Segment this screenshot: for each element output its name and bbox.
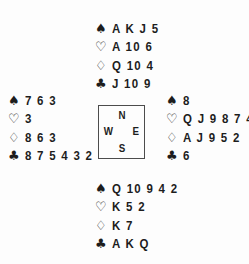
west-clubs-row: ♣ 8 7 5 4 3 2 (8, 147, 105, 166)
bridge-deal-diagram: ♠ A K J 5 ♡ A 10 6 ♢ Q 10 4 ♣ J 10 9 ♠ 7… (0, 0, 249, 264)
north-clubs-cards: J 10 9 (112, 77, 152, 91)
north-hearts-row: ♡ A 10 6 (95, 38, 168, 57)
west-hearts-row: ♡ 3 (8, 110, 105, 129)
west-diamonds-row: ♢ 8 6 3 (8, 128, 105, 147)
east-hearts-row: ♡ Q J 9 8 7 4 (166, 110, 249, 129)
spade-icon: ♠ (8, 94, 25, 107)
club-icon: ♣ (8, 149, 25, 162)
club-icon: ♣ (95, 237, 112, 250)
south-hearts-cards: K 5 2 (112, 200, 146, 214)
north-clubs-row: ♣ J 10 9 (95, 75, 168, 94)
west-hand: ♠ 7 6 3 ♡ 3 ♢ 8 6 3 ♣ 8 7 5 4 3 2 (8, 91, 105, 165)
south-diamonds-cards: K 7 (112, 219, 134, 233)
west-hearts-cards: 3 (25, 112, 33, 126)
north-spades-row: ♠ A K J 5 (95, 19, 168, 38)
spade-icon: ♠ (95, 182, 112, 195)
compass-box: N E S W (98, 105, 145, 159)
west-clubs-cards: 8 7 5 4 3 2 (25, 149, 93, 163)
diamond-icon: ♢ (95, 219, 112, 232)
south-hearts-row: ♡ K 5 2 (95, 198, 190, 217)
south-spades-row: ♠ Q 10 9 4 2 (95, 179, 190, 198)
spade-icon: ♠ (95, 22, 112, 35)
heart-icon: ♡ (8, 112, 25, 125)
south-hand: ♠ Q 10 9 4 2 ♡ K 5 2 ♢ K 7 ♣ A K Q (95, 179, 190, 253)
west-spades-cards: 7 6 3 (25, 94, 57, 108)
east-spades-cards: 8 (183, 94, 191, 108)
south-clubs-cards: A K Q (112, 237, 150, 251)
club-icon: ♣ (95, 77, 112, 90)
north-diamonds-row: ♢ Q 10 4 (95, 56, 168, 75)
east-diamonds-cards: A J 9 5 2 (183, 131, 241, 145)
heart-icon: ♡ (166, 112, 183, 125)
compass-south-label: S (118, 143, 125, 155)
east-spades-row: ♠ 8 (166, 91, 249, 110)
north-hearts-cards: A 10 6 (112, 40, 153, 54)
east-clubs-row: ♣ 6 (166, 147, 249, 166)
west-spades-row: ♠ 7 6 3 (8, 91, 105, 110)
north-hand: ♠ A K J 5 ♡ A 10 6 ♢ Q 10 4 ♣ J 10 9 (95, 19, 168, 93)
east-clubs-cards: 6 (183, 149, 191, 163)
heart-icon: ♡ (95, 40, 112, 53)
south-diamonds-row: ♢ K 7 (95, 216, 190, 235)
east-hearts-cards: Q J 9 8 7 4 (183, 112, 249, 126)
south-clubs-row: ♣ A K Q (95, 235, 190, 254)
east-hand: ♠ 8 ♡ Q J 9 8 7 4 ♢ A J 9 5 2 ♣ 6 (166, 91, 249, 165)
compass-east-label: E (133, 126, 140, 138)
diamond-icon: ♢ (166, 131, 183, 144)
south-spades-cards: Q 10 9 4 2 (112, 182, 178, 196)
north-spades-cards: A K J 5 (112, 22, 159, 36)
spade-icon: ♠ (166, 94, 183, 107)
west-diamonds-cards: 8 6 3 (25, 131, 57, 145)
compass-north-label: N (118, 110, 125, 122)
club-icon: ♣ (166, 149, 183, 162)
diamond-icon: ♢ (8, 131, 25, 144)
diamond-icon: ♢ (95, 59, 112, 72)
heart-icon: ♡ (95, 200, 112, 213)
east-diamonds-row: ♢ A J 9 5 2 (166, 128, 249, 147)
north-diamonds-cards: Q 10 4 (112, 59, 154, 73)
compass-west-label: W (104, 126, 113, 138)
